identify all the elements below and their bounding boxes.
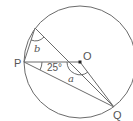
angle-arc-b <box>31 37 44 41</box>
label-q: Q <box>113 109 122 121</box>
angle-arc-25 <box>40 62 42 70</box>
radius-o-q <box>80 62 114 107</box>
label-p: P <box>14 57 21 69</box>
center-dot <box>79 61 82 64</box>
label-angle-25: 25° <box>47 62 62 73</box>
label-angle-b: b <box>34 43 40 54</box>
circle-theorem-diagram: P O Q 25° a b <box>0 0 133 121</box>
label-angle-a: a <box>68 73 74 84</box>
label-o: O <box>83 50 92 62</box>
